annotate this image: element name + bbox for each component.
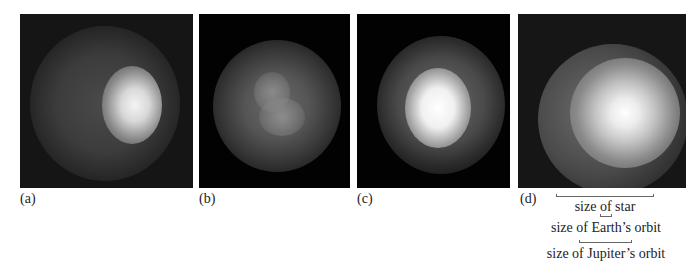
bright-spot-2	[259, 98, 305, 136]
jupiter-orbit-caption: size of Jupiter’s orbit	[541, 246, 671, 262]
earth-orbit-scale-bar	[600, 214, 612, 217]
panel-a-label: (a)	[20, 191, 36, 207]
panel-d-label: (d)	[520, 191, 536, 207]
panel-c-label: (c)	[357, 191, 373, 207]
star-size-caption: size of star	[555, 199, 655, 215]
panel-b-label: (b)	[199, 191, 215, 207]
earth-orbit-caption: size of Earth’s orbit	[546, 220, 666, 236]
jupiter-orbit-scale-bar	[579, 240, 632, 243]
bright-core	[570, 58, 680, 168]
panel-d-image	[518, 14, 686, 188]
bright-spot	[405, 68, 471, 148]
panel-b-image	[199, 14, 350, 188]
bright-spot	[102, 66, 162, 144]
star-size-scale-bar	[556, 194, 654, 197]
panel-c-image	[357, 14, 510, 188]
panel-a-image	[20, 14, 193, 188]
